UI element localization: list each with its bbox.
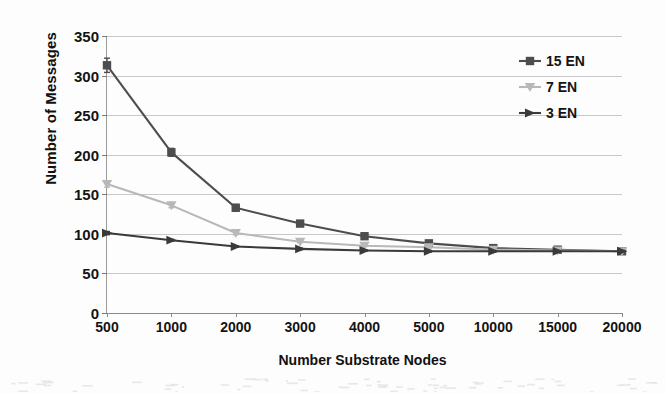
series-7-en <box>102 180 627 256</box>
x-tick-mark <box>236 313 237 317</box>
data-point-marker <box>166 236 176 245</box>
x-tick-label: 4000 <box>349 319 380 335</box>
chart-legend: 15 EN7 EN3 EN <box>519 46 617 128</box>
legend-marker-icon <box>519 106 541 120</box>
x-tick-mark <box>365 313 366 317</box>
y-tick-label: 300 <box>74 67 99 84</box>
x-tick-label: 15000 <box>538 319 577 335</box>
data-point-marker <box>103 61 111 69</box>
y-tick-label: 200 <box>74 146 99 163</box>
x-tick-mark <box>300 313 301 317</box>
x-tick-label: 20000 <box>603 319 642 335</box>
data-point-marker <box>167 148 175 156</box>
x-tick-mark <box>493 313 494 317</box>
x-tick-mark <box>171 313 172 317</box>
x-tick-label: 3000 <box>285 319 316 335</box>
legend-label: 7 EN <box>546 79 577 95</box>
legend-item-7-en[interactable]: 7 EN <box>519 74 617 100</box>
y-tick-label: 250 <box>74 107 99 124</box>
x-tick-mark <box>622 313 623 317</box>
x-tick-label: 1000 <box>156 319 187 335</box>
x-tick-mark <box>558 313 559 317</box>
legend-marker-icon <box>519 80 541 94</box>
x-axis-title: Number Substrate Nodes <box>100 352 625 368</box>
x-tick-label: 2000 <box>220 319 251 335</box>
legend-label: 15 EN <box>546 53 585 69</box>
y-axis-title: Number of Messages <box>42 0 59 219</box>
x-tick-mark <box>429 313 430 317</box>
legend-item-3-en[interactable]: 3 EN <box>519 100 617 126</box>
x-tick-mark <box>107 313 108 317</box>
x-tick-label: 10000 <box>474 319 513 335</box>
scan-noise <box>0 378 665 392</box>
data-point-marker <box>232 204 240 212</box>
data-point-marker <box>231 242 241 251</box>
y-tick-label: 100 <box>74 225 99 242</box>
y-tick-label: 50 <box>82 265 99 282</box>
legend-item-15-en[interactable]: 15 EN <box>519 48 617 74</box>
x-tick-label: 500 <box>95 319 118 335</box>
data-point-marker <box>102 229 112 238</box>
legend-label: 3 EN <box>546 105 577 121</box>
chart-figure: Number of Messages 050100150200250300350… <box>0 0 665 394</box>
y-tick-label: 150 <box>74 186 99 203</box>
legend-marker-icon <box>519 54 541 68</box>
x-tick-label: 5000 <box>413 319 444 335</box>
y-tick-label: 350 <box>74 28 99 45</box>
data-point-marker <box>360 232 368 240</box>
data-point-marker <box>296 219 304 227</box>
